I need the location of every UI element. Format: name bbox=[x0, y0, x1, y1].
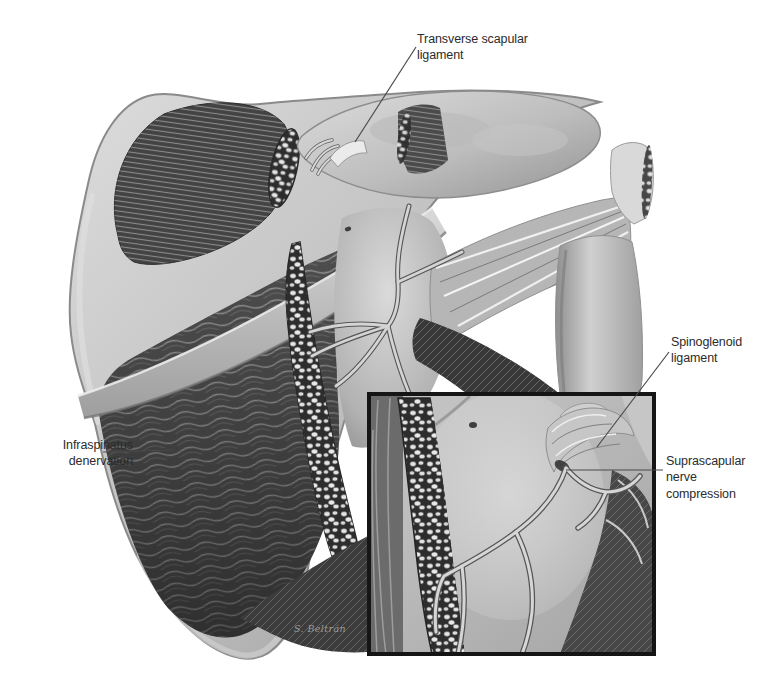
shoulder-illustration bbox=[0, 0, 770, 682]
inset-foramen-dot bbox=[469, 422, 477, 428]
inset-cut-muscle-left bbox=[371, 396, 403, 654]
label-suprascapular-nerve-compression: Suprascapular nerve compression bbox=[666, 453, 762, 502]
figure-canvas: Transverse scapular ligament Spinoglenoi… bbox=[0, 0, 770, 682]
label-infraspinatus-denervation: Infraspinatus denervation bbox=[28, 437, 133, 470]
teres-minor-band bbox=[413, 318, 562, 396]
inset-panel bbox=[369, 390, 654, 655]
label-spinoglenoid-ligament: Spinoglenoid ligament bbox=[671, 334, 763, 367]
artist-signature: S. Beltrán bbox=[294, 623, 346, 634]
label-transverse-scapular-ligament: Transverse scapular ligament bbox=[417, 31, 543, 64]
humerus-shaft bbox=[556, 236, 643, 394]
